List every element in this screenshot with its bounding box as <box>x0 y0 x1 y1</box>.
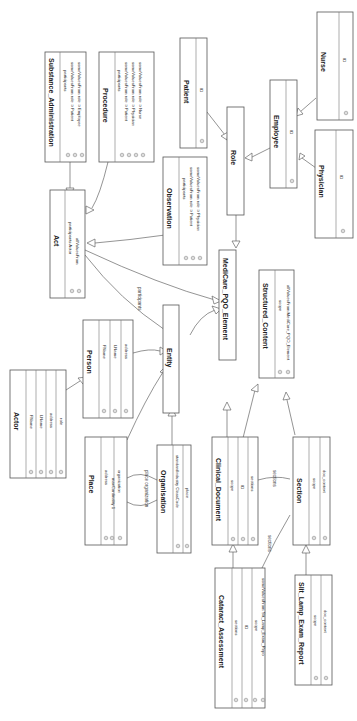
attribute-icon <box>104 536 108 540</box>
edge-physician-to-employee <box>302 158 316 168</box>
edge-employee-to-role <box>252 148 270 157</box>
edge-cataract-sections <box>262 515 290 568</box>
svg-text:FName: FName <box>102 345 107 359</box>
class-role[interactable]: Role <box>227 107 244 215</box>
svg-text:someValuesFrom role ⊃ Patient: someValuesFrom role ⊃ Patient <box>189 167 194 227</box>
arrowhead-icon <box>87 239 95 247</box>
class-organisation[interactable]: Organisation standardIndustry ClassCode … <box>157 445 191 553</box>
uml-diagram-canvas: participants place organization sections… <box>0 0 357 721</box>
class-title: Person <box>86 350 93 374</box>
class-title: Employee <box>272 115 280 148</box>
arrowhead-icon <box>283 392 290 400</box>
attribute-icon <box>234 698 238 702</box>
edge-label-place-organization: place organization <box>144 470 149 508</box>
svg-text:someValuesFrom Slit_Lamp_Exam: someValuesFrom Slit_Lamp_Exam_Repo <box>261 578 266 656</box>
attribute-icon <box>70 289 74 293</box>
svg-text:ID: ID <box>199 88 204 92</box>
class-title: Observation <box>166 188 173 229</box>
attribute-icon <box>200 139 204 143</box>
arrowhead-icon <box>299 153 305 160</box>
class-act[interactable]: Act participants Actor allValuesFrom <box>50 190 85 298</box>
class-title: Slit_Lamp_Exam_Report <box>297 582 305 665</box>
attribute-icon <box>341 229 345 233</box>
svg-text:scope: scope <box>230 480 235 492</box>
class-nurse[interactable]: Nurse ID <box>317 12 353 120</box>
attribute-icon <box>77 289 81 293</box>
attribute-icon <box>231 537 235 541</box>
edge-label-sections: sections <box>267 535 272 553</box>
svg-text:FName: FName <box>29 415 34 429</box>
class-slit-lamp-exam-report[interactable]: Slit_Lamp_Exam_Report scope doc_context <box>295 575 332 685</box>
attribute-icon <box>278 370 282 374</box>
edge-nurse-to-employee <box>300 98 316 112</box>
class-title: Organisation <box>159 470 167 513</box>
class-observation[interactable]: Observation participants someValuesFrom … <box>163 157 207 265</box>
class-title: Patient <box>183 80 190 104</box>
arrowhead-icon <box>302 545 310 553</box>
edge-actor-to-person <box>66 381 80 390</box>
class-substance-administration[interactable]: Substance_Administration participants so… <box>45 52 86 162</box>
class-title: Role <box>230 150 237 165</box>
class-actor[interactable]: Actor FName LName address role <box>10 370 66 478</box>
attribute-icon <box>241 537 245 541</box>
edge-procedure-to-act <box>92 162 108 208</box>
class-employee[interactable]: Employee ID <box>270 80 297 188</box>
svg-text:ID: ID <box>240 485 245 489</box>
attribute-icon <box>324 676 328 680</box>
arrowhead-icon <box>232 241 240 248</box>
class-place[interactable]: Place address maxCardinality 1 organizat… <box>85 437 127 545</box>
svg-text:scope: scope <box>312 478 317 490</box>
arrowhead-icon <box>245 153 252 161</box>
class-structured-content[interactable]: Structured_Content scope allValuesFrom M… <box>259 270 294 378</box>
class-title: Act <box>53 235 60 247</box>
svg-text:someValuesFrom role ⊃ Nurse: someValuesFrom role ⊃ Nurse <box>138 62 143 120</box>
class-section[interactable]: Section scope doc_context <box>293 437 330 545</box>
class-title: Entity <box>165 348 173 368</box>
attribute-icon <box>253 698 257 702</box>
attribute-icon <box>49 470 53 474</box>
attribute-icon <box>141 153 145 157</box>
class-title: MediCare_PQO_Element <box>221 258 229 341</box>
class-person[interactable]: Person FName LName address <box>83 320 133 418</box>
attribute-icon <box>251 537 255 541</box>
attribute-icon <box>134 153 138 157</box>
edge-clinical-to-structured <box>243 390 255 438</box>
svg-text:someValuesFrom role ⊃ Employe: someValuesFrom role ⊃ Employee <box>77 62 82 127</box>
svg-text:participants Actor: participants Actor <box>68 222 73 255</box>
class-cataract-assessment[interactable]: Cataract_Assessment sections ID scope so… <box>215 568 266 708</box>
svg-text:ID: ID <box>244 625 249 629</box>
attribute-icon <box>185 544 189 548</box>
attribute-icon <box>59 470 63 474</box>
svg-text:address: address <box>124 344 129 359</box>
class-clinical-document[interactable]: Clinical_Document scope ID sections <box>212 437 258 545</box>
edge-organisation-to-place <box>127 500 157 506</box>
svg-text:ID: ID <box>342 58 347 62</box>
class-medicare-pqo-element[interactable]: MediCare_PQO_Element <box>219 250 236 360</box>
attribute-icon <box>120 153 124 157</box>
class-title: Nurse <box>320 52 327 72</box>
svg-text:scope: scope <box>254 620 259 632</box>
class-entity[interactable]: Entity <box>163 305 179 413</box>
attribute-icon <box>29 470 33 474</box>
attribute-icon <box>261 698 265 702</box>
attribute-icon <box>80 153 84 157</box>
class-patient[interactable]: Patient ID <box>180 38 207 148</box>
edge-label-sections: sections <box>272 470 277 488</box>
arrowhead-icon <box>223 402 231 410</box>
class-title: Procedure <box>102 88 109 123</box>
class-physician[interactable]: Physician ID <box>315 130 353 238</box>
svg-text:maxCardinality 1: maxCardinality 1 <box>111 478 116 510</box>
edge-observation-to-act <box>95 235 165 243</box>
attribute-icon <box>73 153 77 157</box>
class-procedure[interactable]: Procedure participants someValuesFrom ro… <box>99 52 154 162</box>
svg-text:allValuesFrom MediCare_PQO_El: allValuesFrom MediCare_PQO_Element <box>286 285 291 361</box>
svg-text:someValuesFrom role ⊃ Physici: someValuesFrom role ⊃ Physician <box>131 62 136 127</box>
edge-entity-to-medicare <box>190 310 215 335</box>
attribute-icon <box>290 179 294 183</box>
svg-text:sections: sections <box>250 476 255 491</box>
attribute-icon <box>312 536 316 540</box>
svg-text:someValuesFrom role ⊃ Physici: someValuesFrom role ⊃ Physician <box>196 167 201 232</box>
svg-text:organization: organization <box>117 470 122 493</box>
class-title: Section <box>296 478 303 503</box>
class-title: Physician <box>317 165 325 198</box>
